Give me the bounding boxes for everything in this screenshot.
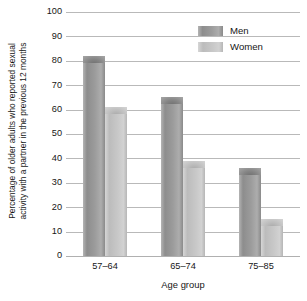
legend-swatch-men	[198, 26, 223, 36]
y-axis-tick-labels: 1009080706050403020100	[36, 0, 62, 262]
y-axis-title-line-1: Percentage of older adults who reported …	[7, 43, 18, 220]
y-axis-tick-label: 90	[36, 32, 62, 41]
legend-item-women: Women	[198, 41, 263, 52]
bar-cap	[239, 168, 261, 175]
gridline	[66, 12, 300, 13]
legend: MenWomen	[198, 25, 263, 52]
bar-women-75-85	[261, 219, 283, 256]
y-axis-tick-label: 10	[36, 227, 62, 236]
legend-label: Men	[230, 26, 249, 36]
x-axis-tick-label: 75–85	[231, 262, 291, 271]
bar-women-57-64	[105, 107, 127, 256]
y-axis-tick-label: 30	[36, 178, 62, 187]
y-axis-title: Percentage of older adults who reported …	[0, 0, 36, 262]
y-axis-tick-label: 80	[36, 56, 62, 65]
y-axis-tick-label: 20	[36, 203, 62, 212]
y-axis-tick-label: 0	[36, 251, 62, 260]
gridline	[66, 36, 300, 37]
bar-men-65-74	[161, 97, 183, 256]
legend-item-men: Men	[198, 25, 263, 36]
bar-women-65-74	[183, 161, 205, 256]
y-axis-tick-label: 60	[36, 105, 62, 114]
y-axis-tick-label: 70	[36, 81, 62, 90]
bar-cap	[161, 97, 183, 104]
y-axis-title-line-2: activity with a partner in the previous …	[18, 43, 29, 220]
bar-cap	[83, 56, 105, 63]
plot-area	[66, 12, 300, 256]
bar-men-57-64	[83, 56, 105, 256]
legend-swatch-women	[198, 42, 223, 52]
y-axis-tick-label: 100	[36, 7, 62, 16]
x-axis-tick-label: 57–64	[75, 262, 135, 271]
x-axis-tick-label: 65–74	[153, 262, 213, 271]
x-axis-title: Age group	[66, 279, 300, 290]
y-axis-tick-label: 40	[36, 154, 62, 163]
bar-cap	[183, 161, 205, 168]
bar-chart: Percentage of older adults who reported …	[0, 0, 307, 301]
y-axis-tick-label: 50	[36, 129, 62, 138]
bar-cap	[105, 107, 127, 114]
x-axis-line	[66, 256, 300, 257]
legend-label: Women	[230, 42, 263, 52]
bar-men-75-85	[239, 168, 261, 256]
bar-cap	[261, 219, 283, 226]
